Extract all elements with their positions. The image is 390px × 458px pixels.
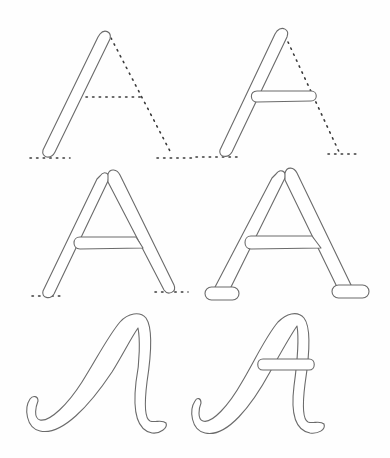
right-diagonal-stroke <box>108 170 175 293</box>
cursive-a-crossbar <box>258 359 315 370</box>
left-diagonal-stroke <box>43 173 109 298</box>
panel-2 <box>196 29 360 157</box>
panel-1 <box>30 31 192 158</box>
panel-6 <box>192 314 324 434</box>
crossbar <box>245 236 321 249</box>
crossbar <box>74 237 143 249</box>
cursive-a-body-stroke <box>192 314 324 434</box>
left-foot-serif <box>205 287 239 300</box>
panel-3 <box>32 170 188 298</box>
panel-4 <box>205 168 369 300</box>
left-diagonal-stroke <box>43 31 111 157</box>
cursive-a-body-stroke <box>27 314 166 433</box>
panel-5 <box>27 314 166 433</box>
left-diagonal-stroke <box>214 171 285 289</box>
right-foot-serif <box>332 285 369 298</box>
right-diagonal-stroke <box>285 168 352 287</box>
letter-a-construction-diagram: Step-by-step construction of the letter … <box>0 0 390 458</box>
crossbar <box>251 91 316 102</box>
diagram-svg <box>0 0 390 458</box>
